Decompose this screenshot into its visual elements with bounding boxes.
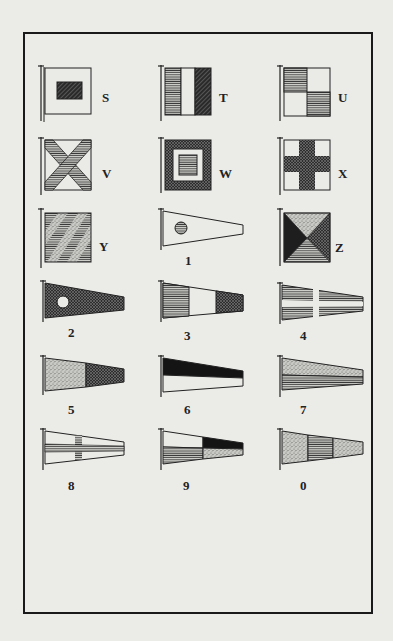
flag-label: 7	[300, 402, 307, 418]
flag-0	[277, 428, 367, 482]
flag-label: Z	[335, 240, 344, 256]
flag-0-icon	[277, 428, 367, 478]
flag-label: 0	[300, 478, 307, 494]
flag-label: X	[338, 166, 347, 182]
flag-8	[40, 428, 130, 482]
flag-v-icon	[38, 137, 98, 197]
flag-label: U	[338, 90, 347, 106]
flag-1-icon	[158, 208, 248, 268]
flag-s	[38, 65, 98, 129]
flag-9	[158, 428, 248, 482]
flag-2	[40, 280, 130, 334]
flag-7-icon	[277, 355, 367, 405]
flag-5	[40, 355, 130, 409]
flag-7	[277, 355, 367, 409]
flag-label: 5	[68, 402, 75, 418]
flag-x	[277, 137, 337, 201]
flag-t	[158, 65, 218, 129]
flag-w	[158, 137, 218, 201]
flag-5-icon	[40, 355, 130, 405]
flag-8-icon	[40, 428, 130, 478]
flag-label: 6	[184, 402, 191, 418]
flag-4-icon	[277, 282, 367, 332]
flag-label: 8	[68, 478, 75, 494]
flag-label: 4	[300, 328, 307, 344]
flag-label: W	[219, 166, 232, 182]
flag-6-icon	[158, 355, 248, 405]
flag-z-icon	[277, 208, 337, 270]
flag-label: 1	[185, 253, 192, 269]
flag-4	[277, 282, 367, 336]
flag-v	[38, 137, 98, 201]
flag-s-icon	[38, 65, 98, 125]
flag-6	[158, 355, 248, 409]
flag-2-icon	[40, 280, 130, 330]
flag-t-icon	[158, 65, 218, 125]
flag-label: 9	[183, 478, 190, 494]
flag-x-icon	[277, 137, 337, 197]
flag-3	[158, 280, 248, 334]
flag-9-icon	[158, 428, 248, 478]
flag-label: T	[219, 90, 228, 106]
flag-label: V	[102, 166, 111, 182]
flag-label: 2	[68, 325, 75, 341]
flag-u-icon	[277, 65, 337, 125]
flag-label: Y	[99, 239, 108, 255]
flag-y-icon	[38, 208, 98, 270]
flag-3-icon	[158, 280, 248, 330]
flag-1	[158, 208, 248, 272]
flag-label: 3	[184, 328, 191, 344]
flag-z	[277, 208, 337, 274]
flag-u	[277, 65, 337, 129]
flag-w-icon	[158, 137, 218, 197]
flag-y	[38, 208, 98, 274]
flag-label: S	[102, 90, 109, 106]
